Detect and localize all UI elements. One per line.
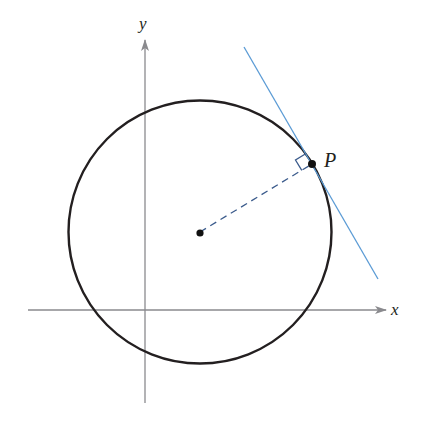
x-axis-label: x (390, 300, 399, 319)
dashed-radius (200, 164, 312, 232)
right-angle-mark (296, 154, 306, 171)
point-P-label: P (323, 149, 336, 171)
point-P (308, 160, 316, 168)
y-axis-label: y (137, 14, 147, 33)
center-point (196, 229, 203, 236)
tangent-diagram: x y P (0, 0, 428, 442)
